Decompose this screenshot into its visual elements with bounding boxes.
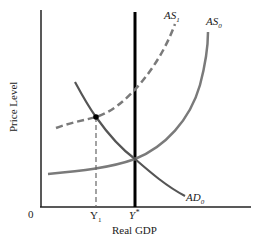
as1-label: AS1	[163, 9, 180, 24]
y1-tick-label: Y1	[90, 209, 102, 224]
x-axis-label: Real GDP	[112, 224, 157, 236]
as0-label: AS0	[205, 15, 222, 30]
y-axis-label: Price Level	[7, 82, 19, 132]
ad-as-chart: Price Level 0 Y1 Y* Real GDP AS1 AS0 AD0	[0, 0, 256, 238]
ad0-label: AD0	[185, 191, 205, 206]
as1-curve	[56, 24, 175, 128]
equilibrium-point	[93, 114, 99, 120]
origin-label: 0	[28, 208, 34, 220]
ystar-tick-label: Y*	[129, 208, 139, 221]
